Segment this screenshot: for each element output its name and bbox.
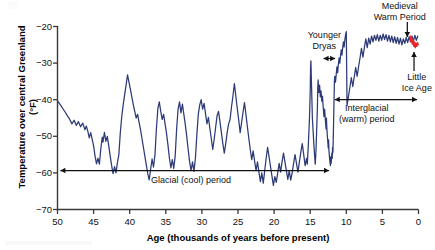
x-tick-35: 35 xyxy=(157,216,175,227)
interglacial-line2: (warm) period xyxy=(339,114,395,124)
y-tick-minus70: −70 xyxy=(24,204,52,215)
annotation-younger-dryas: Younger Dryas xyxy=(298,30,350,51)
y-tick-minus60: −60 xyxy=(24,167,52,178)
x-tick-15: 15 xyxy=(301,216,319,227)
little-ice-line2: Ice Age xyxy=(402,83,432,93)
x-tick-0: 0 xyxy=(410,216,428,227)
annotation-little-ice-age: Little Ice Age xyxy=(393,72,435,93)
x-tick-40: 40 xyxy=(121,216,139,227)
y-tick-minus20: −20 xyxy=(24,21,52,32)
little-ice-line1: Little xyxy=(407,72,426,82)
y-tick-minus50: −50 xyxy=(24,130,52,141)
x-tick-25: 25 xyxy=(229,216,247,227)
x-tick-5: 5 xyxy=(373,216,391,227)
x-tick-50: 50 xyxy=(49,216,67,227)
annotation-medieval-warm-period: Medieval Warm Period xyxy=(360,1,435,22)
x-tick-45: 45 xyxy=(85,216,103,227)
medieval-line2: Warm Period xyxy=(374,12,426,22)
y-tick-minus40: −40 xyxy=(24,94,52,105)
annotation-interglacial-period: Interglacial (warm) period xyxy=(328,103,406,124)
x-tick-30: 30 xyxy=(193,216,211,227)
annotation-glacial-period: Glacial (cool) period xyxy=(136,175,246,186)
chart-canvas xyxy=(0,0,435,250)
interglacial-line1: Interglacial xyxy=(345,103,389,113)
y-tick-minus30: −30 xyxy=(24,57,52,68)
greenland-temperature-figure: Temperature over central Greenland (°F) … xyxy=(0,0,435,250)
younger-dryas-line2: Dryas xyxy=(313,41,337,51)
x-axis-title: Age (thousands of years before present) xyxy=(140,232,336,243)
younger-dryas-line1: Younger xyxy=(308,30,341,40)
x-tick-20: 20 xyxy=(265,216,283,227)
medieval-line1: Medieval xyxy=(382,1,418,11)
x-tick-10: 10 xyxy=(337,216,355,227)
